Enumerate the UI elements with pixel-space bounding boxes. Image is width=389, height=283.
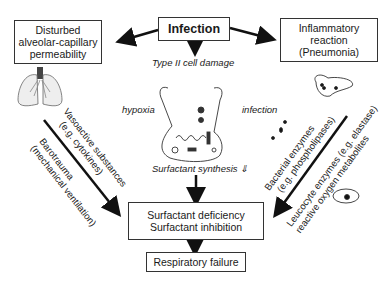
inflammatory-line-2: reaction — [281, 34, 377, 46]
leucocyte-cell — [333, 189, 359, 203]
type2-cell-damage-label: Type II cell damage — [152, 57, 234, 68]
disturbed-line-1: Disturbed — [15, 24, 101, 36]
disturbed-permeability-box: Disturbed alveolar-capillary permeabilit… — [14, 20, 102, 64]
respiratory-failure-label: Respiratory failure — [147, 256, 245, 268]
disturbed-line-2: alveolar-capillary — [15, 36, 101, 48]
deficiency-line-1: Surfactant deficiency — [129, 209, 263, 221]
inflammatory-reaction-box: Inflammatory reaction (Pneumonia) — [280, 18, 378, 62]
respiratory-failure-box: Respiratory failure — [146, 252, 246, 272]
infection-small-label: infection — [242, 104, 277, 115]
lungs-illustration — [18, 67, 62, 106]
surfactant-synthesis-label: Surfactant synthesis ⇓ — [152, 163, 248, 174]
inflammatory-line-3: (Pneumonia) — [281, 46, 377, 58]
surfactant-deficiency-box: Surfactant deficiency Surfactant inhibit… — [128, 202, 264, 240]
inflammatory-line-1: Inflammatory — [281, 22, 377, 34]
type2-cell-illustration — [160, 87, 222, 161]
hypoxia-label: hypoxia — [122, 104, 155, 115]
disturbed-line-3: permeability — [15, 48, 101, 60]
infection-box: Infection — [158, 17, 230, 41]
infection-label: Infection — [159, 23, 229, 35]
deficiency-line-2: Surfactant inhibition — [129, 221, 263, 233]
